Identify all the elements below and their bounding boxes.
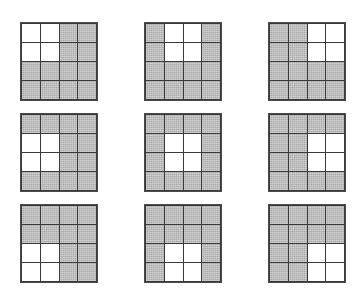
grid-cell-shaded — [202, 206, 220, 224]
grid-cell-unshaded — [326, 134, 344, 152]
grid-cell-shaded — [22, 81, 40, 99]
grid-cell-unshaded — [41, 244, 59, 262]
grid-cell-unshaded — [22, 244, 40, 262]
grid-cell-shaded — [184, 172, 202, 190]
grid-cell-shaded — [202, 115, 220, 133]
grid-cell-shaded — [41, 115, 59, 133]
grid-cell-shaded — [165, 62, 183, 80]
grid-cell-shaded — [308, 172, 326, 190]
grid-cell-shaded — [146, 43, 164, 61]
grid-cell-unshaded — [326, 43, 344, 61]
grid-cell-shaded — [270, 244, 288, 262]
grid-cell-shaded — [326, 206, 344, 224]
grid-cell-shaded — [60, 115, 78, 133]
grid-cell-unshaded — [22, 43, 40, 61]
grid-cell-shaded — [22, 172, 40, 190]
grid-cell-shaded — [202, 153, 220, 171]
grid-cell-shaded — [22, 225, 40, 243]
grid-cell-shaded — [146, 81, 164, 99]
grid-cell-unshaded — [326, 263, 344, 281]
grid-cell-unshaded — [184, 43, 202, 61]
grid-panel-3 — [268, 22, 346, 101]
grid-cell-shaded — [326, 81, 344, 99]
grid-cell-shaded — [78, 172, 96, 190]
grid-cell-shaded — [60, 24, 78, 42]
grid-cell-shaded — [146, 134, 164, 152]
grid-cell-unshaded — [308, 43, 326, 61]
grid-cell-shaded — [289, 134, 307, 152]
grid-cell-unshaded — [326, 153, 344, 171]
grid-cell-unshaded — [184, 244, 202, 262]
grid-cell-shaded — [270, 263, 288, 281]
grid-cell-shaded — [78, 263, 96, 281]
grid-cell-shaded — [78, 225, 96, 243]
grid-cell-shaded — [146, 244, 164, 262]
grid-cell-unshaded — [165, 24, 183, 42]
grid-cell-shaded — [22, 62, 40, 80]
grid-cell-shaded — [270, 81, 288, 99]
grid-cell-shaded — [146, 263, 164, 281]
grid-cell-shaded — [22, 206, 40, 224]
grid-cell-shaded — [326, 172, 344, 190]
grid-cell-shaded — [78, 206, 96, 224]
grid-panel-8 — [144, 204, 222, 283]
grid-cell-shaded — [326, 115, 344, 133]
grid-cell-shaded — [289, 24, 307, 42]
grid-cell-unshaded — [41, 43, 59, 61]
grid-cell-shaded — [60, 244, 78, 262]
grid-cell-shaded — [202, 244, 220, 262]
grid-cell-unshaded — [308, 263, 326, 281]
grid-cell-unshaded — [22, 263, 40, 281]
grid-cell-shaded — [202, 43, 220, 61]
grid-cell-shaded — [289, 62, 307, 80]
grid-cell-shaded — [270, 115, 288, 133]
grid-panel-4 — [20, 113, 98, 192]
grid-cell-shaded — [202, 134, 220, 152]
grid-cell-shaded — [308, 115, 326, 133]
grid-cell-shaded — [202, 263, 220, 281]
grid-cell-shaded — [289, 263, 307, 281]
grid-cell-unshaded — [165, 153, 183, 171]
grid-cell-shaded — [60, 225, 78, 243]
grid-cell-shaded — [308, 225, 326, 243]
grid-cell-shaded — [270, 24, 288, 42]
grid-cell-shaded — [184, 62, 202, 80]
grid-cell-shaded — [289, 225, 307, 243]
grid-panel-7 — [20, 204, 98, 283]
grid-cell-shaded — [78, 62, 96, 80]
grid-cell-shaded — [289, 244, 307, 262]
grid-cell-shaded — [146, 172, 164, 190]
grid-cell-shaded — [184, 115, 202, 133]
grid-cell-shaded — [60, 206, 78, 224]
grid-cell-shaded — [270, 153, 288, 171]
grid-cell-shaded — [41, 172, 59, 190]
grid-cell-shaded — [165, 172, 183, 190]
grid-cell-shaded — [202, 81, 220, 99]
grid-cell-unshaded — [165, 43, 183, 61]
grid-cell-unshaded — [184, 153, 202, 171]
grid-cell-shaded — [184, 81, 202, 99]
grid-cell-shaded — [289, 153, 307, 171]
grid-panel-2 — [144, 22, 222, 101]
grid-cell-shaded — [165, 81, 183, 99]
grid-cell-shaded — [289, 81, 307, 99]
grid-panel-5 — [144, 113, 222, 192]
grid-panel-1 — [20, 22, 98, 101]
grid-cell-shaded — [289, 206, 307, 224]
grid-cell-shaded — [270, 225, 288, 243]
grid-cell-unshaded — [41, 263, 59, 281]
grid-cell-shaded — [289, 172, 307, 190]
grid-cell-shaded — [41, 225, 59, 243]
grid-cell-unshaded — [326, 24, 344, 42]
grid-cell-shaded — [146, 153, 164, 171]
grid-cell-shaded — [146, 62, 164, 80]
grid-cell-unshaded — [41, 134, 59, 152]
grid-cell-unshaded — [184, 24, 202, 42]
grid-cell-shaded — [165, 225, 183, 243]
grid-cell-shaded — [165, 206, 183, 224]
grid-cell-unshaded — [165, 244, 183, 262]
grid-cell-shaded — [41, 81, 59, 99]
grid-cell-shaded — [22, 115, 40, 133]
grid-cell-shaded — [60, 62, 78, 80]
grid-cell-shaded — [202, 172, 220, 190]
